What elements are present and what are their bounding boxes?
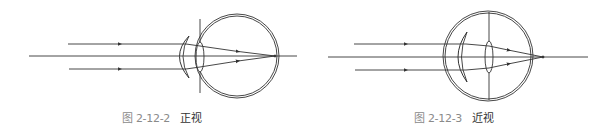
myopia-eye-diagram [328,11,588,101]
cornea [180,36,190,78]
figure-title: 正视 [180,112,202,125]
figure-caption-normal: 图 2-12-2正视 [122,109,202,125]
lower-refracted-ray [200,61,238,67]
focus-point [542,56,544,58]
figure-number: 图 2-12-3 [414,112,462,125]
upper-refracted-ray [200,46,238,52]
figure-number: 图 2-12-2 [122,112,170,125]
normal-eye-diagram [29,14,297,98]
figure-caption-myopia: 图 2-12-3近视 [414,109,494,125]
focus-point [274,55,276,57]
diagram-canvas [0,0,614,130]
figure-title: 近视 [472,112,494,125]
